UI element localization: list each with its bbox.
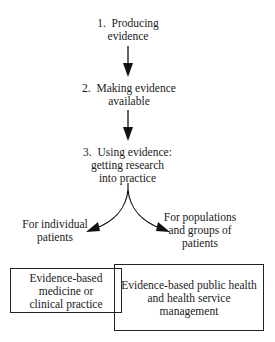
branch-line: For populations bbox=[160, 211, 240, 224]
step-2-label: 2. Making evidence available bbox=[73, 82, 185, 108]
outcome-box-public-health: Evidence-based public health and health … bbox=[114, 264, 264, 331]
step-line: available bbox=[73, 95, 185, 108]
branch-individual-label: For individual patients bbox=[20, 218, 90, 244]
branch-line: patients bbox=[160, 237, 240, 250]
outcome-box-clinical: Evidence-based medicine or clinical prac… bbox=[10, 268, 122, 313]
branch-line: and groups of bbox=[160, 224, 240, 237]
arrow-step2-to-step3 bbox=[123, 110, 133, 141]
step-1-label: 1. Producing evidence bbox=[88, 17, 168, 43]
step-line: evidence bbox=[88, 30, 168, 43]
outcome-line: and health service bbox=[115, 291, 263, 304]
step-number: 3. bbox=[83, 146, 92, 158]
outcome-line: Evidence-based bbox=[11, 271, 121, 284]
outcome-line: clinical practice bbox=[11, 297, 121, 310]
step-line: Making evidence bbox=[96, 82, 176, 94]
outcome-line: Evidence-based public health bbox=[115, 278, 263, 291]
outcome-line: medicine or bbox=[11, 284, 121, 297]
step-line: getting research bbox=[70, 159, 185, 172]
outcome-line: management bbox=[115, 304, 263, 317]
step-line: into practice bbox=[70, 172, 185, 185]
branch-line: patients bbox=[20, 231, 90, 244]
step-number: 2. bbox=[82, 82, 91, 94]
step-line: Using evidence: bbox=[97, 146, 171, 158]
branch-arrow-individual bbox=[86, 183, 128, 232]
arrow-step1-to-step2 bbox=[123, 46, 133, 77]
branch-populations-label: For populations and groups of patients bbox=[160, 211, 240, 250]
step-line: Producing bbox=[112, 17, 159, 29]
step-3-label: 3. Using evidence: getting research into… bbox=[70, 146, 185, 185]
branch-line: For individual bbox=[20, 218, 90, 231]
step-number: 1. bbox=[97, 17, 106, 29]
